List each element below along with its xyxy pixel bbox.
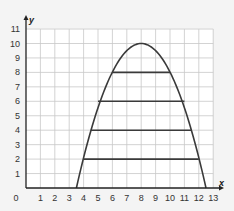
- y-axis-arrow-icon: [24, 15, 29, 20]
- x-tick-label: 7: [124, 193, 129, 203]
- x-tick-label: 5: [95, 193, 100, 203]
- x-tick-label: 13: [208, 193, 218, 203]
- x-tick-label: 12: [194, 193, 204, 203]
- x-tick-label: 8: [139, 193, 144, 203]
- x-tick-label: 1: [38, 193, 43, 203]
- y-tick-label: 10: [10, 39, 20, 49]
- graph-frame: 012345678910111213 1234567891011 x y: [0, 0, 234, 211]
- y-tick-label: 6: [15, 96, 20, 106]
- y-tick-label: 4: [15, 125, 20, 135]
- y-tick-label: 1: [15, 169, 20, 179]
- y-tick-label: 7: [15, 82, 20, 92]
- x-tick-label: 9: [153, 193, 158, 203]
- x-tick-label: 11: [180, 193, 189, 203]
- x-tick-labels: 012345678910111213: [13, 193, 218, 203]
- y-axis-label: y: [28, 15, 35, 25]
- y-tick-labels: 1234567891011: [10, 24, 20, 179]
- x-tick-label: 10: [165, 193, 175, 203]
- y-tick-label: 9: [15, 53, 20, 63]
- x-tick-label: 2: [52, 193, 57, 203]
- y-tick-label: 2: [15, 154, 20, 164]
- x-tick-label: 0: [13, 193, 18, 203]
- y-tick-label: 8: [15, 67, 20, 77]
- y-tick-label: 11: [11, 24, 20, 34]
- x-tick-label: 6: [110, 193, 115, 203]
- y-tick-label: 5: [15, 111, 20, 121]
- x-axis-label: x: [218, 178, 225, 188]
- x-tick-label: 3: [67, 193, 72, 203]
- x-tick-label: 4: [81, 193, 86, 203]
- y-tick-label: 3: [15, 140, 20, 150]
- parabola-chart: 012345678910111213 1234567891011 x y: [0, 0, 234, 211]
